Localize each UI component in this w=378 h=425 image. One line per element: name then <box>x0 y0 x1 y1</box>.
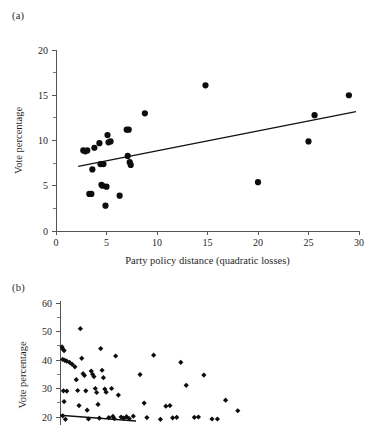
data-point <box>89 166 95 172</box>
data-point <box>201 373 206 378</box>
data-point <box>196 414 201 419</box>
data-point <box>74 377 79 382</box>
y-tick-label: 60 <box>42 298 52 309</box>
data-point <box>96 140 102 146</box>
data-point <box>144 415 149 420</box>
data-point <box>61 399 66 404</box>
data-point <box>97 416 102 421</box>
data-point <box>209 416 214 421</box>
data-point <box>109 386 114 391</box>
data-point <box>100 161 106 167</box>
data-point <box>107 138 113 144</box>
y-tick-label: 10 <box>38 135 48 146</box>
y-tick-label: 0 <box>43 226 48 237</box>
y-tick-label: 30 <box>42 383 52 394</box>
data-point <box>93 386 98 391</box>
x-axis-title: Party policy distance (quadratic losses) <box>125 255 290 267</box>
y-tick-label: 20 <box>42 412 52 423</box>
data-point <box>142 400 147 405</box>
data-point <box>113 353 118 358</box>
data-point <box>117 193 123 199</box>
data-point <box>223 398 228 403</box>
data-point <box>94 390 99 395</box>
data-point <box>137 372 142 377</box>
data-point <box>151 353 156 358</box>
data-point <box>126 127 132 133</box>
data-point <box>75 388 80 393</box>
data-point <box>170 415 175 420</box>
data-point <box>163 404 168 409</box>
data-point <box>84 147 90 153</box>
y-axis-title: Vote percentage <box>17 341 28 408</box>
data-point <box>125 153 131 159</box>
figure-root: (a) 05101520253005101520Party policy dis… <box>0 0 378 425</box>
data-point <box>215 416 220 421</box>
data-point <box>83 388 88 393</box>
data-point <box>91 145 97 151</box>
data-point <box>76 403 81 408</box>
data-point <box>79 356 84 361</box>
data-point <box>101 375 106 380</box>
data-point <box>116 392 121 397</box>
y-tick-label: 15 <box>38 90 48 101</box>
data-point <box>95 402 100 407</box>
y-tick-label: 5 <box>43 180 48 191</box>
y-tick-label: 20 <box>38 45 48 56</box>
data-point <box>78 326 83 331</box>
x-tick-label: 0 <box>54 237 59 248</box>
panel-b: (b) 2030405060Vote percentage <box>0 280 378 425</box>
data-point <box>158 417 163 422</box>
x-tick-label: 15 <box>203 237 213 248</box>
data-point <box>104 132 110 138</box>
data-point <box>85 408 90 413</box>
data-point <box>98 346 103 351</box>
data-point <box>178 360 183 365</box>
x-tick-label: 10 <box>152 237 162 248</box>
data-point <box>128 162 134 168</box>
data-point <box>103 184 109 190</box>
data-point <box>235 408 240 413</box>
panel-a-plot: 05101520253005101520Party policy distanc… <box>0 0 378 280</box>
data-point <box>346 92 352 98</box>
data-point <box>174 415 179 420</box>
data-point <box>255 179 261 185</box>
data-point <box>202 82 208 88</box>
panel-b-plot: 2030405060Vote percentage <box>0 280 378 425</box>
regression-line <box>78 112 356 167</box>
y-tick-label: 50 <box>42 326 52 337</box>
panel-a: (a) 05101520253005101520Party policy dis… <box>0 0 378 280</box>
data-point <box>184 383 189 388</box>
y-tick-label: 40 <box>42 355 52 366</box>
data-point <box>64 388 69 393</box>
data-point <box>311 112 317 118</box>
x-tick-label: 25 <box>304 237 314 248</box>
data-point <box>167 403 172 408</box>
y-axis-title: Vote percentage <box>13 107 24 174</box>
data-point <box>305 138 311 144</box>
data-point <box>99 368 104 373</box>
x-tick-label: 20 <box>253 237 263 248</box>
data-point <box>131 414 136 419</box>
x-tick-label: 5 <box>104 237 109 248</box>
data-point <box>142 110 148 116</box>
data-point <box>88 191 94 197</box>
data-point <box>102 203 108 209</box>
x-tick-label: 30 <box>354 237 364 248</box>
